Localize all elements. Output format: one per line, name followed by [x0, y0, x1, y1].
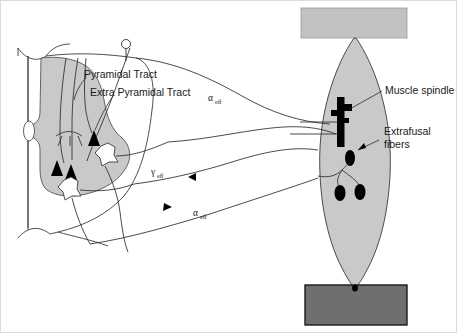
- gamma-efferent-symbol: γ: [150, 167, 155, 177]
- extrafusal-endplate-3: [355, 184, 366, 200]
- label-extrafusal-fibers-line2: fibers: [384, 138, 410, 150]
- label-extra-pyramidal-tract: Extra Pyramidal Tract: [90, 86, 190, 98]
- alpha-efferent-upper-subscript: eff: [215, 99, 222, 105]
- anatomical-diagram-figure: Pyramidal Tract Extra Pyramidal Tract Mu…: [0, 0, 457, 333]
- label-muscle-spindle: Muscle spindle: [385, 84, 455, 96]
- extrafusal-endplate-2: [335, 185, 346, 201]
- extrafusal-endplate-1: [345, 150, 355, 166]
- alpha-efferent-lower-subscript: eff: [200, 214, 207, 220]
- label-pyramidal-tract: Pyramidal Tract: [84, 68, 157, 80]
- neuron-soma-circle: [122, 40, 131, 49]
- label-extrafusal-fibers-line1: Extrafusal: [384, 125, 431, 137]
- alpha-efferent-lower-symbol: α: [193, 208, 198, 218]
- lateral-funiculus-oval: [24, 121, 35, 141]
- intrafusal-bundle-main: [337, 97, 345, 147]
- alpha-efferent-upper-symbol: α: [208, 93, 213, 103]
- diagram-canvas: Pyramidal Tract Extra Pyramidal Tract Mu…: [0, 0, 457, 333]
- gamma-efferent-subscript: eff: [157, 173, 164, 179]
- intrafusal-node-mid: [344, 118, 349, 123]
- intrafusal-node-lower: [331, 110, 338, 116]
- tendon-attachment-top: [301, 8, 407, 38]
- distal-tendon-point: [352, 285, 358, 292]
